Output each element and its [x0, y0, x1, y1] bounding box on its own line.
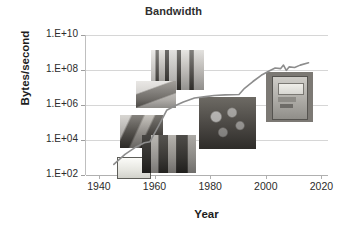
x-tick-label: 1940 — [76, 180, 122, 192]
x-tick-label: 1960 — [132, 180, 178, 192]
x-tick-label: 2020 — [298, 180, 344, 192]
x-tick-label: 1980 — [187, 180, 233, 192]
bandwidth-chart: Bandwidth Bytes/second Year 1.E+021.E+04… — [0, 0, 347, 230]
y-tick-label: 1.E+02 — [18, 168, 78, 179]
y-tick-mark — [81, 175, 85, 176]
y-tick-label: 1.E+04 — [18, 133, 78, 144]
y-tick-label: 1.E+06 — [18, 98, 78, 109]
bandwidth-series-line — [86, 35, 328, 175]
y-tick-label: 1.E+10 — [18, 28, 78, 39]
plot-area — [85, 35, 327, 175]
x-tick-label: 2000 — [243, 180, 289, 192]
x-axis-title: Year — [85, 208, 328, 220]
chart-title: Bandwidth — [0, 5, 347, 17]
bandwidth-polyline — [114, 63, 309, 165]
y-tick-label: 1.E+08 — [18, 63, 78, 74]
